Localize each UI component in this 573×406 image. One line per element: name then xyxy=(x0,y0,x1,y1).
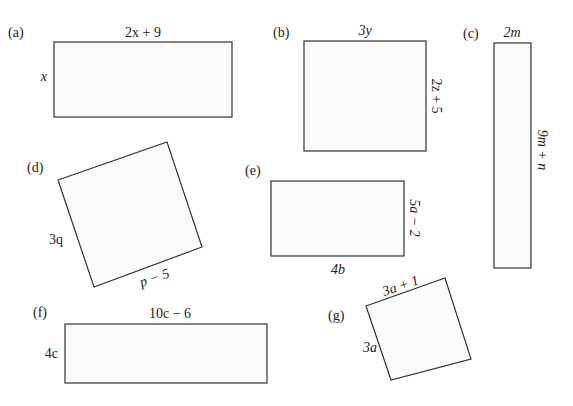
figure-c-top-dimension: 2m xyxy=(503,25,520,40)
figure-e-rectangle xyxy=(271,181,404,256)
figure-g-label: (g) xyxy=(328,308,345,324)
figure-f-label: (f) xyxy=(33,305,47,321)
figure-e-bottom-dimension: 4b xyxy=(331,262,345,277)
figure-c-rectangle xyxy=(494,43,531,268)
figure-a-side-dimension: x xyxy=(40,69,48,84)
rectangles-diagram: (a) 2x + 9 x (b) 3y 2z + 5 (c) 2m 9m + n… xyxy=(0,0,573,406)
figure-a-top-dimension: 2x + 9 xyxy=(125,25,161,40)
figure-d-side-dimension: 3q xyxy=(49,232,63,247)
figure-a-rectangle xyxy=(54,42,232,117)
figure-b-top-dimension: 3y xyxy=(357,23,372,38)
figure-g-side-dimension: 3a xyxy=(362,340,377,355)
figure-b-side-dimension: 2z + 5 xyxy=(429,78,444,113)
figure-b-rectangle xyxy=(304,41,426,151)
figure-b-label: (b) xyxy=(273,25,290,41)
figure-c-label: (c) xyxy=(463,26,479,42)
figure-e-label: (e) xyxy=(245,163,261,179)
figure-c-side-dimension: 9m + n xyxy=(535,130,550,171)
figure-f-top-dimension: 10c − 6 xyxy=(149,306,191,321)
figure-a-label: (a) xyxy=(8,25,24,41)
figure-g-rectangle xyxy=(366,278,471,380)
figure-e-side-dimension: 5a − 2 xyxy=(407,199,422,236)
figure-f-rectangle xyxy=(65,324,267,383)
figure-d-label: (d) xyxy=(27,160,44,176)
figure-f-side-dimension: 4c xyxy=(45,346,58,361)
figure-d-rectangle xyxy=(58,142,202,287)
